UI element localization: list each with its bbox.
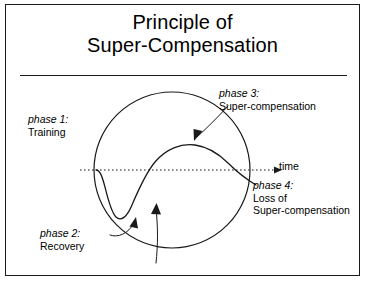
label-phase-4-text-line-2: Super-compensation (253, 204, 350, 217)
performance-curve (96, 145, 256, 219)
label-phase-4-heading: phase 4: (253, 179, 350, 192)
label-phase-2: phase 2: Recovery (40, 227, 84, 252)
supercompensation-diagram: phase 1: Training phase 2: Recovery phas… (6, 75, 361, 276)
slide-frame: Principle of Super-Compensation (5, 4, 360, 276)
phase4-pointer-line (156, 208, 158, 263)
title-line-2: Super-Compensation (6, 34, 359, 57)
slide-canvas: Principle of Super-Compensation (0, 0, 366, 281)
label-phase-2-heading: phase 2: (40, 227, 84, 240)
label-time-axis: time (279, 160, 299, 173)
label-phase-4: phase 4: Loss of Super-compensation (253, 179, 350, 217)
label-phase-1-text: Training (28, 126, 68, 139)
label-phase-3: phase 3: Super-compensation (219, 87, 316, 112)
label-phase-3-text: Super-compensation (219, 100, 316, 113)
label-phase-3-heading: phase 3: (219, 87, 316, 100)
phase2-pointer-arrowhead (130, 217, 139, 229)
label-phase-4-text-line-1: Loss of (253, 192, 350, 205)
page-title: Principle of Super-Compensation (6, 11, 359, 57)
phase3-pointer-arrowhead (194, 129, 203, 141)
label-phase-2-text: Recovery (40, 240, 84, 253)
phase4-pointer-arrowhead (151, 203, 161, 215)
label-phase-1: phase 1: Training (28, 113, 68, 138)
title-line-1: Principle of (6, 11, 359, 34)
label-phase-1-heading: phase 1: (28, 113, 68, 126)
